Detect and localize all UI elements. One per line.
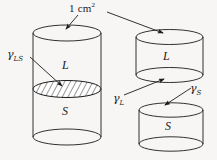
hatched-interface-ellipse bbox=[33, 81, 101, 98]
left-cylinder-bottom-back bbox=[33, 129, 101, 137]
gamma-ls-subscript: LS bbox=[14, 55, 23, 63]
right-upper-top-face bbox=[136, 30, 203, 45]
area-arrow-to-left-cylinder bbox=[66, 15, 78, 29]
gamma-symbol: γ bbox=[190, 82, 197, 95]
interface-disc bbox=[33, 81, 101, 98]
diagram-svg bbox=[0, 0, 217, 160]
phase-label-liquid-right: L bbox=[163, 50, 170, 62]
gamma-s-label: γS bbox=[190, 83, 201, 94]
right-lower-bottom-front bbox=[139, 144, 203, 151]
area-exponent: 2 bbox=[92, 1, 96, 9]
figure-canvas: 1 cm2 γLS γL γS L S L S bbox=[0, 0, 217, 160]
gamma-ls-leader bbox=[30, 57, 62, 86]
gamma-l-label: γL bbox=[113, 93, 124, 104]
area-label: 1 cm2 bbox=[69, 3, 95, 14]
phase-label-solid-right: S bbox=[165, 120, 171, 132]
gamma-symbol: γ bbox=[7, 48, 14, 61]
left-cylinder-bottom-front bbox=[33, 137, 101, 145]
gamma-ls-label: γLS bbox=[7, 49, 23, 60]
gamma-s-leader bbox=[165, 88, 191, 105]
right-lower-cylinder-body bbox=[139, 103, 203, 151]
right-lower-bottom-back bbox=[139, 137, 203, 144]
gamma-symbol: γ bbox=[113, 92, 120, 105]
gamma-l-subscript: L bbox=[120, 99, 125, 107]
right-upper-bottom-back bbox=[136, 68, 203, 75]
right-lower-top-face bbox=[139, 103, 203, 117]
gamma-l-leader bbox=[124, 79, 164, 95]
phase-label-solid-left: S bbox=[62, 105, 68, 117]
phase-label-liquid-left: L bbox=[62, 59, 69, 71]
gamma-s-subscript: S bbox=[197, 89, 202, 97]
area-arrow-to-right-cylinder bbox=[107, 12, 163, 33]
